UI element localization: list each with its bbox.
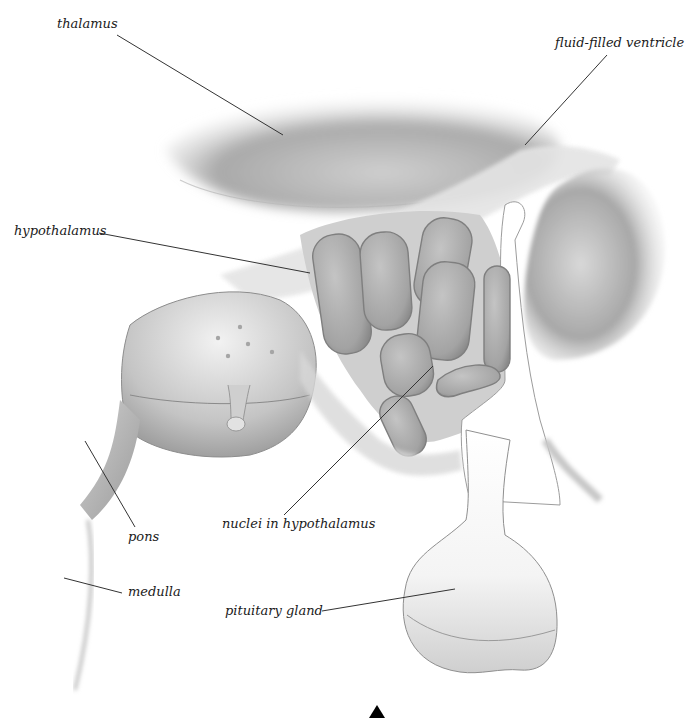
label-hypothalamus: hypothalamus xyxy=(14,224,107,237)
illustration xyxy=(0,0,690,723)
label-pituitary-gland: pituitary gland xyxy=(225,604,323,617)
triangle-marker-icon xyxy=(369,705,385,718)
label-pons: pons xyxy=(128,530,159,543)
label-medulla: medulla xyxy=(128,585,181,598)
label-thalamus: thalamus xyxy=(57,17,118,30)
anatomy-diagram: thalamus fluid-filled ventricle hypothal… xyxy=(0,0,690,723)
label-nuclei-in-hypothalamus: nuclei in hypothalamus xyxy=(222,517,375,530)
label-fluid-filled-ventricle: fluid-filled ventricle xyxy=(555,36,684,49)
